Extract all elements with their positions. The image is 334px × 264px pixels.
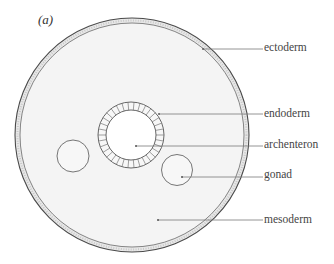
gonad-left (57, 140, 89, 172)
label-endoderm: endoderm (264, 107, 310, 119)
label-mesoderm: mesoderm (264, 213, 312, 225)
cross-section-diagram: (a) ectoderm endoderm archenteron gonad … (0, 0, 334, 264)
archenteron-cavity (106, 110, 156, 160)
label-gonad: gonad (264, 168, 292, 181)
label-archenteron: archenteron (264, 138, 319, 150)
gonad-right (162, 155, 193, 186)
label-ectoderm: ectoderm (264, 41, 307, 53)
panel-label: (a) (38, 12, 53, 27)
endoderm-ring (98, 102, 164, 168)
